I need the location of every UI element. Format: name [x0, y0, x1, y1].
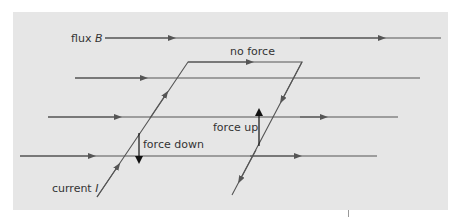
edge-tick: [348, 210, 349, 217]
force-down-label: force down: [143, 138, 204, 151]
flux-label: flux B: [71, 32, 102, 45]
magnetic-force-diagram: flux B no force force up force down curr…: [0, 0, 462, 217]
current-label: current I: [52, 182, 98, 195]
no-force-label: no force: [230, 45, 275, 58]
force-arrows: [139, 112, 259, 160]
current-loop: [97, 62, 302, 197]
force-up-label: force up: [213, 121, 258, 134]
